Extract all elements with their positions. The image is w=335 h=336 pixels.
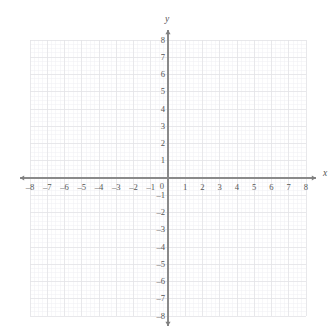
y-tick-label: –5 (149, 260, 165, 269)
y-tick-label: –1 (149, 191, 165, 200)
y-tick-label: 7 (149, 53, 165, 62)
y-axis-label: y (165, 15, 169, 25)
y-tick-label: –6 (149, 277, 165, 286)
y-tick-label: –8 (149, 312, 165, 321)
x-tick-label: 0 (152, 182, 172, 191)
x-tick-label: 8 (296, 183, 316, 192)
y-tick-label: –2 (149, 208, 165, 217)
y-tick-label: 6 (149, 70, 165, 79)
y-tick-label: –4 (149, 243, 165, 252)
y-tick-label: 8 (149, 36, 165, 45)
y-tick-label: 4 (149, 105, 165, 114)
coordinate-grid-canvas (0, 0, 335, 336)
y-tick-label: –7 (149, 294, 165, 303)
y-tick-label: 2 (149, 139, 165, 148)
y-tick-label: –3 (149, 225, 165, 234)
y-tick-label: 3 (149, 122, 165, 131)
y-tick-label: 1 (149, 156, 165, 165)
x-axis-label: x (323, 169, 327, 179)
y-tick-label: 5 (149, 87, 165, 96)
coordinate-plane-figure: –8–7–6–5–4–3–2–1012345678 87654321–1–2–3… (0, 0, 335, 336)
